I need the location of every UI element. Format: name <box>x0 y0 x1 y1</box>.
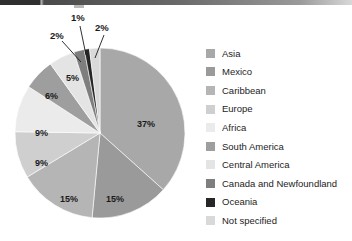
legend-swatch-icon <box>206 49 215 58</box>
legend-item[interactable]: Caribbean <box>206 81 352 100</box>
legend-swatch-icon <box>206 67 215 76</box>
slice-label-mexico: 15% <box>106 194 124 204</box>
legend-item[interactable]: Europe <box>206 100 352 119</box>
slice-label-central-america: 5% <box>66 73 79 83</box>
legend-item-label: Caribbean <box>222 86 266 96</box>
slice-label-south-america: 6% <box>45 91 58 101</box>
legend-item[interactable]: Africa <box>206 118 352 137</box>
legend-item-label: Oceania <box>222 197 257 207</box>
legend-item-label: Europe <box>222 104 253 114</box>
legend-item-label: Mexico <box>222 67 252 77</box>
legend-swatch-icon <box>206 160 215 169</box>
legend-item[interactable]: South America <box>206 137 352 156</box>
legend-item[interactable]: Asia <box>206 44 352 63</box>
slice-label-caribbean: 15% <box>60 194 78 204</box>
slice-label-africa: 9% <box>35 128 48 138</box>
callout-label-oceania: 1% <box>71 12 85 23</box>
legend-swatch-icon <box>206 216 215 225</box>
legend: AsiaMexicoCaribbeanEuropeAfricaSouth Ame… <box>206 44 352 230</box>
legend-swatch-icon <box>206 198 215 207</box>
legend-item-label: Africa <box>222 123 246 133</box>
callout-label-canada: 2% <box>50 30 64 41</box>
legend-item-label: Not specified <box>222 216 277 226</box>
legend-swatch-icon <box>206 86 215 95</box>
slice-label-europe: 9% <box>35 158 48 168</box>
legend-item-label: Asia <box>222 49 240 59</box>
legend-item[interactable]: Not specified <box>206 211 352 230</box>
legend-item-label: Central America <box>222 160 290 170</box>
legend-item[interactable]: Canada and Newfoundland <box>206 174 352 193</box>
callout-label-not-specified: 2% <box>95 22 109 33</box>
legend-item[interactable]: Mexico <box>206 63 352 82</box>
legend-swatch-icon <box>206 123 215 132</box>
legend-item-label: South America <box>222 142 284 152</box>
legend-item[interactable]: Oceania <box>206 193 352 212</box>
legend-item[interactable]: Central America <box>206 156 352 175</box>
legend-swatch-icon <box>206 179 215 188</box>
legend-swatch-icon <box>206 142 215 151</box>
slice-label-asia: 37% <box>137 119 155 129</box>
legend-item-label: Canada and Newfoundland <box>222 179 337 189</box>
legend-swatch-icon <box>206 105 215 114</box>
